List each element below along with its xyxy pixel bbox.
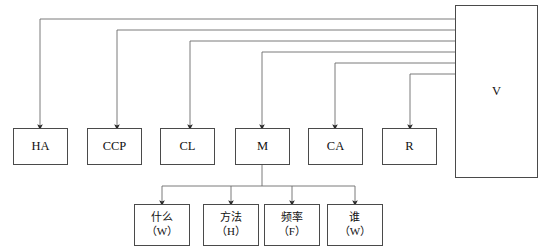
- node-ca[interactable]: CA: [308, 128, 363, 165]
- diagram-canvas: V HA CCP CL M CA R 什么 （W） 方法 （H） 频率 （F） …: [0, 0, 549, 252]
- node-frequency-label-code: （F）: [278, 225, 307, 238]
- node-how-label-code: （H）: [216, 225, 247, 238]
- node-what-label-primary: 什么: [151, 212, 174, 225]
- node-cl-label: CL: [180, 139, 196, 154]
- node-how[interactable]: 方法 （H）: [203, 204, 259, 246]
- node-r[interactable]: R: [382, 128, 437, 165]
- node-who[interactable]: 谁 （W）: [327, 204, 383, 246]
- node-how-label-primary: 方法: [220, 212, 243, 225]
- node-ha[interactable]: HA: [13, 128, 68, 165]
- node-ca-label: CA: [327, 139, 344, 154]
- node-vessel-v[interactable]: V: [455, 5, 538, 178]
- node-who-label-primary: 谁: [349, 212, 360, 225]
- node-frequency[interactable]: 频率 （F）: [264, 204, 320, 246]
- node-what[interactable]: 什么 （W）: [134, 204, 190, 246]
- node-ccp-label: CCP: [103, 139, 127, 154]
- node-m-label: M: [257, 139, 268, 154]
- node-cl[interactable]: CL: [160, 128, 215, 165]
- node-frequency-label-primary: 频率: [281, 212, 304, 225]
- node-m[interactable]: M: [235, 128, 290, 165]
- node-who-label-code: （W）: [339, 225, 372, 238]
- node-ccp[interactable]: CCP: [87, 128, 142, 165]
- node-r-label: R: [405, 139, 413, 154]
- node-vessel-label: V: [492, 84, 501, 99]
- node-what-label-code: （W）: [146, 225, 179, 238]
- node-ha-label: HA: [31, 139, 49, 154]
